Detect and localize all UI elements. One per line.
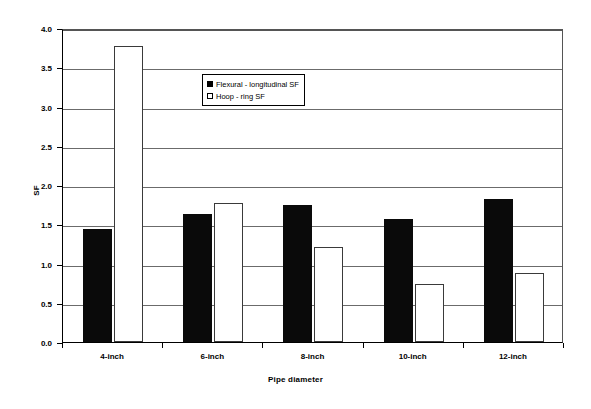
y-axis-tick-label: 0.5 xyxy=(0,299,52,308)
legend-item-flexural: Flexural - longitudinal SF xyxy=(207,78,299,90)
bar-hoop xyxy=(314,247,343,342)
bar-flexural xyxy=(484,199,513,342)
y-axis-tick-label: 2.0 xyxy=(0,182,52,191)
x-axis-category-label: 10-inch xyxy=(399,352,427,361)
x-axis-category-label: 6-inch xyxy=(201,352,225,361)
legend-item-hoop: Hoop - ring SF xyxy=(207,90,299,102)
y-axis-tick-label: 3.0 xyxy=(0,103,52,112)
x-axis-tick xyxy=(162,343,163,348)
y-axis-tick-label: 4.0 xyxy=(0,25,52,34)
bar-hoop xyxy=(515,273,544,342)
bar-hoop xyxy=(214,203,243,342)
y-axis-tick-label: 2.5 xyxy=(0,142,52,151)
bar-flexural xyxy=(283,205,312,342)
y-axis-title: SF xyxy=(32,171,41,211)
bar-flexural xyxy=(183,214,212,342)
bar-hoop xyxy=(415,284,444,342)
x-axis-title: Pipe diameter xyxy=(0,375,591,384)
open-square-icon xyxy=(207,93,213,99)
bar-group xyxy=(364,30,464,342)
x-axis-tick xyxy=(262,343,263,348)
filled-square-icon xyxy=(207,81,213,87)
x-axis-category-label: 8-inch xyxy=(301,352,325,361)
plot-area xyxy=(62,29,563,343)
bar-group xyxy=(464,30,564,342)
legend: Flexural - longitudinal SF Hoop - ring S… xyxy=(202,74,305,106)
x-axis-category-label: 4-inch xyxy=(100,352,124,361)
y-axis-tick-label: 3.5 xyxy=(0,64,52,73)
x-axis-tick xyxy=(363,343,364,348)
x-axis-tick xyxy=(463,343,464,348)
y-axis-tick-label: 1.5 xyxy=(0,221,52,230)
bar-flexural xyxy=(384,219,413,342)
x-axis-tick xyxy=(563,343,564,348)
bar-hoop xyxy=(114,46,143,342)
x-axis-tick xyxy=(62,343,63,348)
bar-group xyxy=(63,30,163,342)
y-axis-tick-label: 1.0 xyxy=(0,260,52,269)
bar-chart: SF 0.00.51.01.52.02.53.03.54.0 4-inch6-i… xyxy=(0,0,591,409)
x-axis-category-label: 12-inch xyxy=(499,352,527,361)
bar-flexural xyxy=(83,229,112,342)
y-axis-tick-label: 0.0 xyxy=(0,339,52,348)
legend-label-flexural: Flexural - longitudinal SF xyxy=(216,80,299,89)
legend-label-hoop: Hoop - ring SF xyxy=(216,92,265,101)
